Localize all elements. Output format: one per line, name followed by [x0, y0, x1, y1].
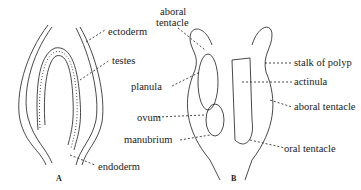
figure-b-actinula: [232, 58, 253, 144]
label-aboral-line1: aboral: [160, 6, 186, 17]
label-oral-tentacle: oral tentacle: [284, 143, 336, 154]
leader-ovum: [158, 115, 205, 117]
label-ovum: ovum: [137, 112, 161, 123]
figure-b-body: [187, 27, 272, 180]
label-aboral-tentacle: aboral tentacle: [294, 101, 356, 112]
figure-a-letter: A: [56, 174, 62, 183]
label-stalk-of-polyp: stalk of polyp: [294, 57, 352, 68]
leader-oral-tentacle: [250, 140, 285, 148]
figure-b-ovum: [206, 104, 224, 136]
figure-a-testes: [37, 48, 81, 150]
label-endoderm: endoderm: [98, 161, 140, 172]
leader-planula: [172, 72, 200, 86]
label-manubrium: manubrium: [124, 134, 172, 145]
leader-ectoderm: [86, 30, 105, 42]
diagram-drawing: [0, 0, 361, 190]
label-testes: testes: [112, 55, 135, 66]
figure-b-planula: [198, 54, 218, 110]
label-actinula: actinula: [294, 76, 327, 87]
label-aboral-line2: tentacle: [156, 17, 189, 28]
figure-a-ectoderm-left: [19, 25, 52, 165]
label-planula: planula: [131, 81, 162, 92]
figure-b-letter: B: [231, 174, 236, 183]
label-ectoderm: ectoderm: [108, 26, 147, 37]
